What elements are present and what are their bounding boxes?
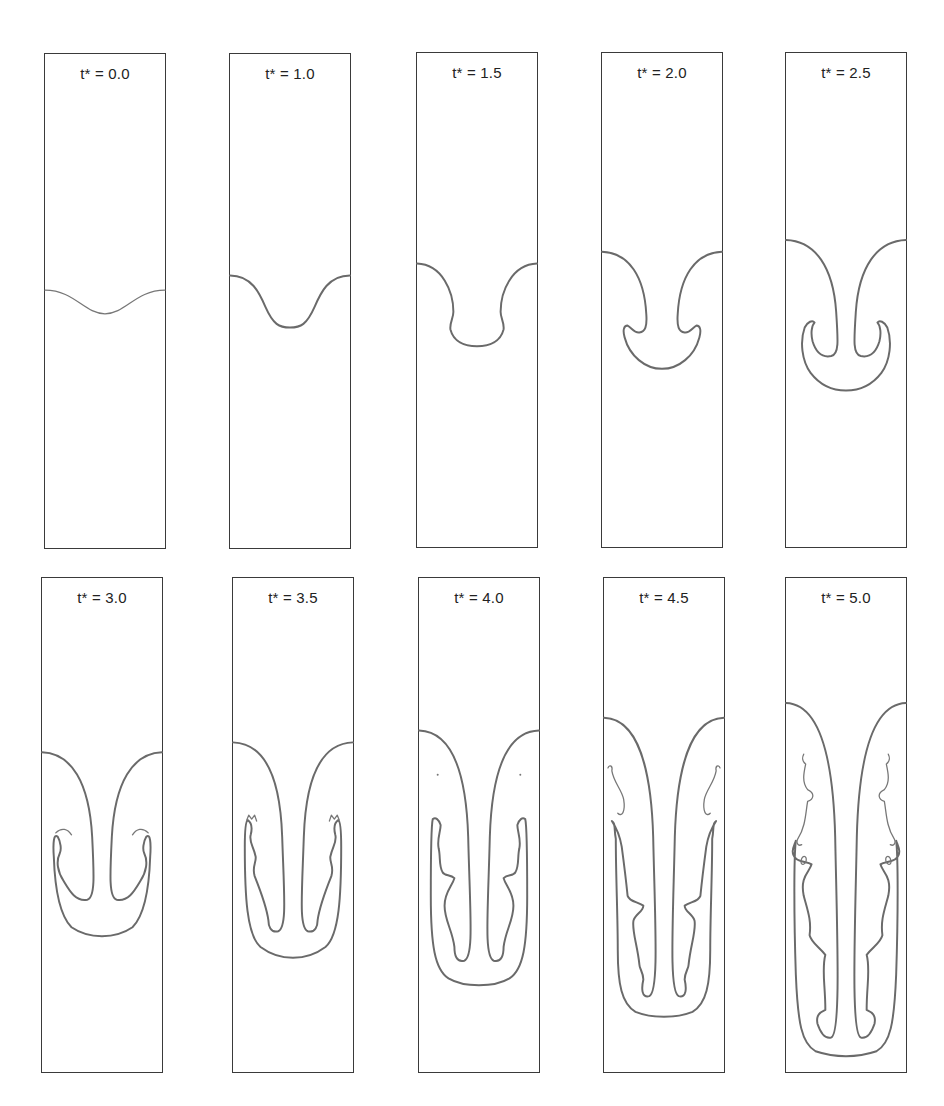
panel-t-3-0: t* = 3.0 — [41, 577, 163, 1073]
panel-t-4-5: t* = 4.5 — [603, 577, 725, 1073]
panel-t-5-0: t* = 5.0 — [785, 577, 907, 1073]
panel-t-0-0: t* = 0.0 — [44, 53, 166, 549]
interface-curve — [417, 53, 537, 547]
interface-curve — [786, 578, 906, 1072]
interface-curve — [786, 53, 906, 547]
panel-t-3-5: t* = 3.5 — [232, 577, 354, 1073]
panel-t-4-0: t* = 4.0 — [418, 577, 540, 1073]
interface-curve — [230, 54, 350, 548]
interface-curve — [233, 578, 353, 1072]
panel-t-1-5: t* = 1.5 — [416, 52, 538, 548]
interface-curve — [419, 578, 539, 1072]
panel-t-1-0: t* = 1.0 — [229, 53, 351, 549]
interface-curve — [42, 578, 162, 1072]
panel-t-2-5: t* = 2.5 — [785, 52, 907, 548]
interface-curve — [45, 54, 165, 548]
interface-curve — [604, 578, 724, 1072]
panel-t-2-0: t* = 2.0 — [601, 52, 723, 548]
interface-curve — [602, 53, 722, 547]
